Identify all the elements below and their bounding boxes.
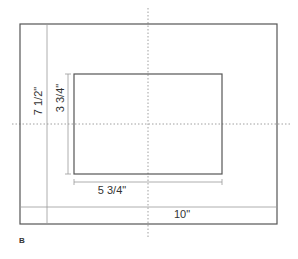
height-label: 7 1/2" xyxy=(32,87,44,115)
opening-height-label: 3 3/4" xyxy=(54,84,66,112)
figure-label: B xyxy=(19,236,25,245)
width-label: 10" xyxy=(174,208,190,220)
opening-width-label: 5 3/4" xyxy=(98,184,126,196)
mat-diagram: 7 1/2" 3 3/4" 5 3/4" 10" B xyxy=(0,0,298,259)
